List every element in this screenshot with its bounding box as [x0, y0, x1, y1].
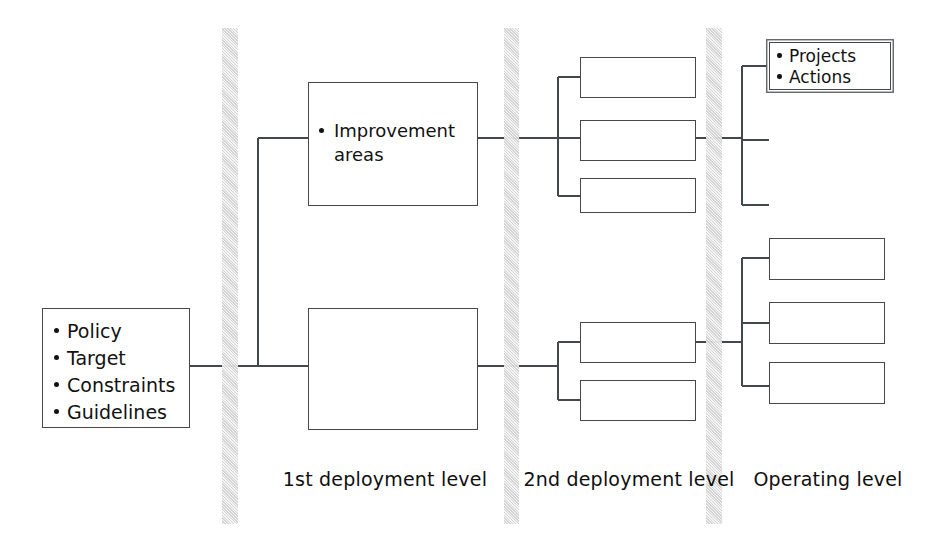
projects-item-list: Projects Actions — [776, 46, 890, 88]
policy-item-2: Constraints — [52, 372, 189, 399]
improvement-item-0: Improvement areas — [319, 119, 484, 167]
node-policy-inputs[interactable]: Policy Target Constraints Guidelines — [42, 308, 190, 428]
node-deployment2-upper-2[interactable] — [580, 120, 696, 161]
node-operating-1[interactable] — [769, 238, 885, 280]
policy-item-1: Target — [52, 345, 189, 372]
label-first-deployment-level: 1st deployment level — [278, 466, 492, 492]
policy-item-0: Policy — [52, 318, 189, 345]
improvement-item-list: Improvement areas — [319, 119, 477, 167]
node-deployment2-upper-1[interactable] — [580, 57, 696, 98]
label-operating-level: Operating level — [740, 466, 916, 492]
policy-item-3: Guidelines — [52, 399, 189, 426]
policy-item-list: Policy Target Constraints Guidelines — [52, 318, 189, 426]
node-operating-3[interactable] — [769, 362, 885, 404]
projects-item-0: Projects — [776, 46, 890, 67]
node-improvement-areas[interactable]: Improvement areas — [308, 82, 478, 206]
node-operating-2[interactable] — [769, 302, 885, 344]
node-deployment2-upper-3[interactable] — [580, 178, 696, 213]
separator-band-2 — [504, 28, 519, 524]
node-deployment2-lower-1[interactable] — [580, 322, 696, 363]
label-second-deployment-level: 2nd deployment level — [522, 466, 736, 492]
projects-item-1: Actions — [776, 67, 890, 88]
diagram-canvas: Policy Target Constraints Guidelines Imp… — [0, 0, 932, 554]
separator-band-1 — [222, 28, 238, 524]
separator-band-3 — [706, 28, 722, 524]
node-deployment1-lower[interactable] — [308, 308, 478, 430]
node-projects-actions[interactable]: Projects Actions — [769, 42, 891, 90]
node-deployment2-lower-2[interactable] — [580, 380, 696, 421]
